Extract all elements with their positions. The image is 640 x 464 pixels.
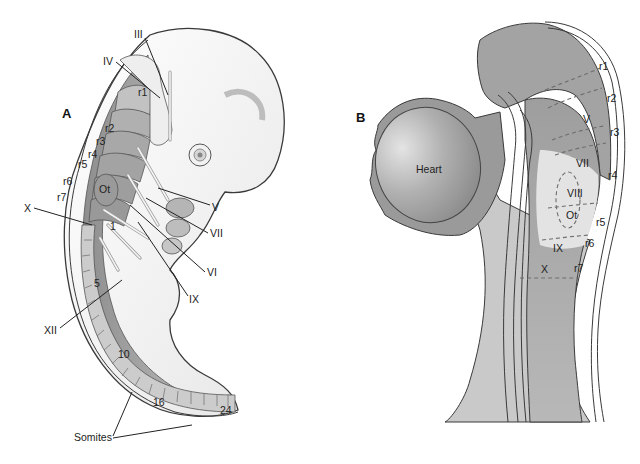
b-nerve-viii: VIII [567, 187, 583, 199]
nerve-label-ix: IX [189, 293, 199, 305]
panel-b-section: Heart B r1 r2 r3 r4 r5 r6 [356, 22, 625, 422]
eye-icon [189, 144, 211, 166]
nerve-label-iv: IV [103, 55, 113, 67]
otic-label-a: Ot [99, 183, 110, 195]
b-rhombomere-r4: r4 [608, 169, 617, 181]
somites-label: Somites [74, 431, 112, 443]
rhombomere-label-r2: r2 [105, 122, 114, 134]
b-nerve-v: V [583, 113, 590, 125]
nerve-label-iii: III [134, 28, 143, 40]
rhombomere-label-r6: r6 [63, 175, 72, 187]
embryo-diagram: A r1 r2 r3 r4 r5 r6 r7 Ot III IV V VII V… [0, 0, 640, 464]
rhombomere-label-r7: r7 [57, 191, 66, 203]
nerve-label-v: V [212, 201, 219, 213]
panel-b-label: B [356, 110, 365, 125]
somite-number-1: 1 [110, 220, 116, 232]
b-rhombomere-r6: r6 [585, 237, 594, 249]
nerve-label-vi: VI [207, 266, 217, 278]
b-rhombomere-r3: r3 [610, 126, 619, 138]
b-rhombomere-r7: r7 [574, 262, 583, 274]
somite-number-24: 24 [220, 404, 232, 416]
nerve-label-vii: VII [210, 227, 223, 239]
b-rhombomere-r5: r5 [596, 216, 605, 228]
b-nerve-vii: VII [576, 157, 589, 169]
b-otic-label: Ot [566, 209, 577, 221]
nerve-label-xii: XII [44, 324, 57, 336]
rhombomere-label-r4: r4 [88, 148, 97, 160]
panel-a-label: A [62, 106, 72, 121]
b-rhombomere-r2: r2 [607, 92, 616, 104]
somite-number-5: 5 [94, 277, 100, 289]
somite-number-10: 10 [118, 348, 130, 360]
rhombomere-label-r1: r1 [138, 86, 147, 98]
rhombomere-label-r5: r5 [78, 158, 87, 170]
rhombomere-label-r3: r3 [96, 135, 105, 147]
b-nerve-ix: IX [553, 242, 563, 254]
panel-a-embryo: A r1 r2 r3 r4 r5 r6 r7 Ot III IV V VII V… [24, 28, 284, 443]
b-nerve-x: X [541, 263, 548, 275]
somite-number-16: 16 [153, 396, 165, 408]
nerve-label-x: X [24, 202, 31, 214]
heart-label: Heart [416, 163, 442, 175]
b-rhombomere-r1: r1 [599, 60, 608, 72]
